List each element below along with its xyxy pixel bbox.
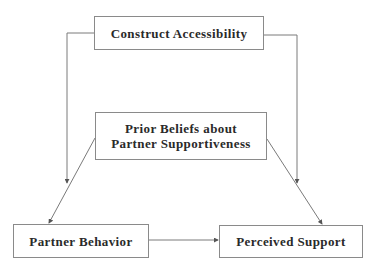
node-label: Prior Beliefs about Partner Supportivene… [111,121,251,151]
node-construct-accessibility: Construct Accessibility [94,16,264,50]
node-label-line-1: Prior Beliefs about [125,121,237,136]
node-label-line-2: Partner Supportiveness [111,136,251,151]
node-prior-beliefs: Prior Beliefs about Partner Supportivene… [95,112,267,160]
diagram-canvas: Construct Accessibility Prior Beliefs ab… [0,0,375,267]
node-label: Partner Behavior [29,234,132,249]
node-partner-behavior: Partner Behavior [13,224,149,258]
node-label: Construct Accessibility [111,26,248,41]
edge-construct-to-behavior [67,33,94,183]
node-perceived-support: Perceived Support [219,225,363,258]
edge-prior-to-behavior [49,138,95,223]
edge-construct-to-perceived [264,35,297,183]
edge-prior-to-perceived [267,139,322,224]
node-label: Perceived Support [236,234,345,249]
